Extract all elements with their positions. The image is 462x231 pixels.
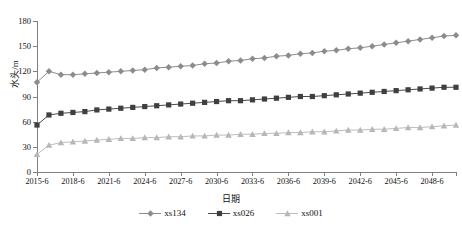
data-point: [177, 63, 184, 70]
data-point: [261, 55, 268, 62]
data-point: [297, 50, 304, 57]
triangle-marker-icon: [284, 210, 291, 217]
x-tick-label: 2015-6: [25, 177, 48, 186]
data-point: [358, 91, 363, 96]
legend-label: xs134: [164, 209, 186, 218]
series-plot: [37, 21, 456, 173]
data-point: [118, 106, 123, 111]
data-point: [58, 111, 63, 116]
data-point: [394, 88, 399, 93]
data-point: [417, 36, 424, 43]
data-point: [141, 66, 148, 73]
data-point: [106, 69, 113, 76]
series-line: [37, 35, 456, 82]
series-xs134: [34, 32, 460, 85]
data-point: [118, 68, 125, 75]
data-point: [94, 107, 99, 112]
x-tick-label: 2042-6: [349, 177, 372, 186]
y-tick-label: 150: [18, 42, 31, 51]
series-xs001: [34, 122, 460, 157]
data-point: [249, 56, 256, 63]
series-line: [37, 87, 456, 125]
data-point: [405, 38, 412, 45]
data-point: [94, 70, 101, 77]
data-point: [309, 50, 316, 57]
plot-area: 0306090120150180 2015-62018-62021-62024-…: [37, 21, 456, 172]
data-point: [130, 105, 135, 110]
data-point: [382, 89, 387, 94]
data-point: [165, 64, 172, 70]
legend-key-triangle-icon: [276, 208, 298, 218]
data-point: [70, 110, 75, 115]
data-point: [441, 33, 448, 40]
y-tick-label: 30: [23, 143, 32, 152]
legend-item-xs134[interactable]: xs134: [139, 208, 186, 218]
x-tick-label: 2039-6: [313, 177, 336, 186]
data-point: [406, 87, 411, 92]
data-point: [142, 104, 147, 109]
data-point: [333, 47, 340, 54]
data-point: [453, 85, 458, 90]
y-tick-label: 60: [23, 117, 32, 126]
data-point: [70, 71, 77, 78]
data-point: [369, 43, 376, 50]
data-point: [189, 62, 196, 69]
data-point: [321, 48, 328, 55]
data-point: [370, 90, 375, 95]
x-tick-label: 2018-6: [61, 177, 84, 186]
y-tick-label: 0: [27, 168, 31, 177]
data-point: [82, 109, 87, 114]
x-tick-label: 2030-6: [205, 177, 228, 186]
data-point: [225, 58, 232, 64]
data-point: [417, 86, 422, 91]
data-point: [46, 112, 51, 117]
data-point: [346, 91, 351, 96]
square-marker-icon: [216, 210, 223, 217]
data-point: [310, 94, 315, 99]
data-point: [82, 71, 89, 78]
chart-legend: xs134xs026xs001: [0, 208, 462, 218]
legend-item-xs001[interactable]: xs001: [276, 208, 323, 218]
y-tick-label: 120: [18, 67, 31, 76]
y-tick-label: 90: [23, 92, 32, 101]
data-point: [153, 65, 160, 72]
data-point: [34, 122, 39, 127]
data-point: [190, 101, 195, 106]
legend-label: xs026: [233, 209, 255, 218]
data-point: [345, 45, 352, 52]
data-point: [237, 57, 244, 64]
data-point: [106, 106, 111, 111]
data-point: [357, 45, 364, 52]
data-point: [58, 71, 65, 78]
x-axis-title: 日期: [0, 192, 462, 205]
x-tick-label: 2048-6: [420, 177, 443, 186]
data-point: [429, 86, 434, 91]
data-point: [429, 35, 436, 42]
x-tick-label: 2024-6: [133, 177, 156, 186]
x-tick-label: 2021-6: [97, 177, 120, 186]
data-point: [238, 98, 243, 103]
legend-label: xs001: [301, 209, 323, 218]
x-tick-label: 2033-6: [241, 177, 264, 186]
data-point: [201, 61, 208, 68]
x-tick-label: 2036-6: [277, 177, 300, 186]
data-point: [286, 95, 291, 100]
data-point: [298, 94, 303, 99]
data-point: [214, 99, 219, 104]
x-tick-mark: [456, 172, 457, 176]
data-point: [381, 41, 388, 48]
x-tick-label: 2027-6: [169, 177, 192, 186]
x-tick-label: 2045-6: [385, 177, 408, 186]
y-tick-label: 180: [18, 17, 31, 26]
data-point: [202, 100, 207, 105]
data-point: [213, 60, 220, 67]
data-point: [393, 40, 400, 47]
data-point: [226, 98, 231, 103]
data-point: [322, 93, 327, 98]
data-point: [274, 96, 279, 101]
legend-item-xs026[interactable]: xs026: [208, 208, 255, 218]
series-xs026: [34, 85, 458, 128]
data-point: [273, 53, 280, 60]
series-line: [37, 125, 456, 154]
legend-key-square-icon: [208, 208, 230, 218]
